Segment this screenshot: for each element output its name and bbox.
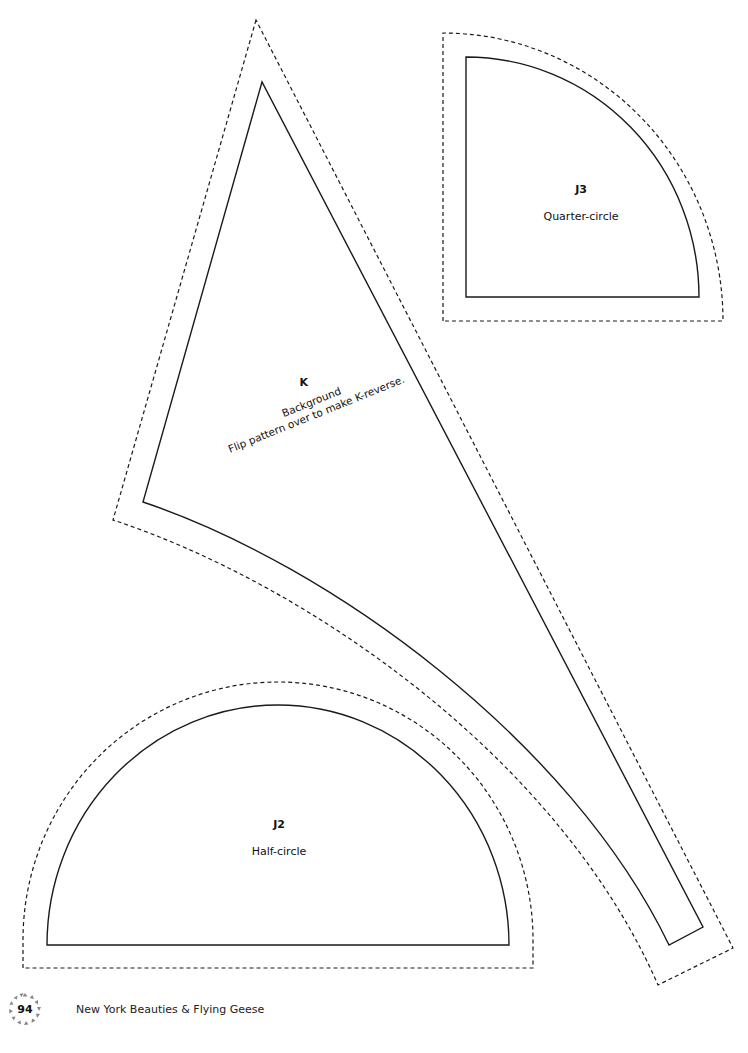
j3-piece-id: J3 [506,183,656,196]
j3-seam-allowance-outline [443,33,723,321]
page-number: 94 [17,1003,32,1016]
j3-shape-name: Quarter-circle [506,210,656,223]
page-footer: 94 New York Beauties & Flying Geese [7,991,264,1027]
template-lines [0,0,748,1053]
j2-piece-id: J2 [204,818,354,831]
k-piece-id: K [299,376,308,389]
j2-label: J2 Half-circle [204,818,354,858]
page-number-badge: 94 [7,991,43,1027]
j2-shape-name: Half-circle [204,845,354,858]
book-title: New York Beauties & Flying Geese [76,1003,264,1016]
j3-sewing-line [466,57,699,297]
j3-label: J3 Quarter-circle [506,183,656,223]
